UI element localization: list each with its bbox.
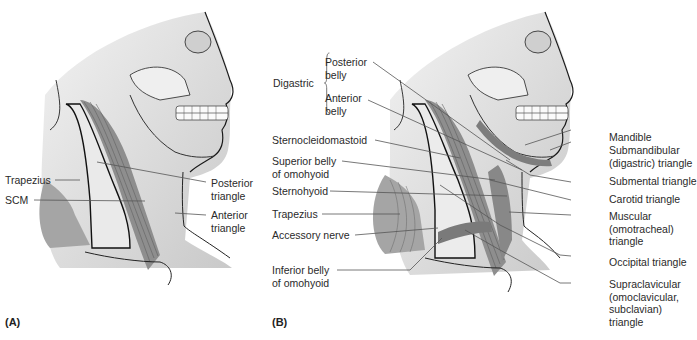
panel-a-illustration xyxy=(0,0,260,340)
label-muscular-triangle: Muscular (omotracheal) triangle xyxy=(609,210,674,248)
label-digastric: Digastric xyxy=(273,77,314,90)
label-trapezius: Trapezius xyxy=(5,174,51,187)
panel-b: Digastric Posterior belly Anterior belly… xyxy=(260,0,678,340)
label-inferior-belly-omohyoid: Inferior belly of omohyoid xyxy=(272,264,329,289)
label-submandibular-triangle: Submandibular (digastric) triangle xyxy=(609,144,692,169)
label-occipital-triangle: Occipital triangle xyxy=(609,256,687,269)
label-sternocleidomastoid: Sternocleidomastoid xyxy=(272,134,367,147)
label-digastric-anterior-belly: Anterior belly xyxy=(325,92,362,117)
label-supraclavicular-triangle: Supraclavicular (omoclavicular, subclavi… xyxy=(609,278,681,328)
label-digastric-posterior-belly: Posterior belly xyxy=(325,56,367,81)
label-scm: SCM xyxy=(5,194,28,207)
label-carotid-triangle: Carotid triangle xyxy=(609,193,680,206)
panel-b-label: (B) xyxy=(272,316,287,328)
label-accessory-nerve: Accessory nerve xyxy=(272,229,350,242)
label-superior-belly-omohyoid: Superior belly of omohyoid xyxy=(272,155,336,180)
panel-a: Trapezius SCM Posterior triangle Anterio… xyxy=(0,0,260,340)
label-sternohyoid: Sternohyoid xyxy=(272,185,328,198)
label-posterior-triangle: Posterior triangle xyxy=(211,177,253,202)
label-mandible: Mandible xyxy=(609,131,652,144)
label-submental-triangle: Submental triangle xyxy=(609,175,697,188)
panel-a-label: (A) xyxy=(5,316,20,328)
label-trapezius-b: Trapezius xyxy=(272,208,318,221)
label-anterior-triangle: Anterior triangle xyxy=(211,209,248,234)
